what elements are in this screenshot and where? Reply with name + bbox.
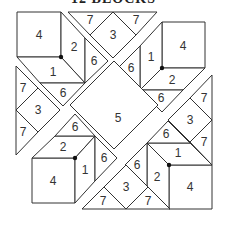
piece-label: 2	[60, 140, 67, 154]
piece-label: 3	[35, 103, 42, 117]
piece-label: 6	[101, 151, 108, 165]
piece-label: 2	[71, 40, 78, 54]
piece-label: 7	[145, 194, 152, 208]
piece-label: 6	[60, 86, 67, 100]
piece-label: 7	[100, 194, 107, 208]
piece-label: 6	[163, 127, 170, 141]
piece-label: 2	[154, 170, 161, 184]
puzzle-diagram: 421667377374126673754216641266737	[0, 0, 227, 232]
vertex-dot-bl-dot	[73, 156, 77, 160]
piece-label: 6	[134, 158, 141, 172]
piece-label: 3	[187, 113, 194, 127]
piece-label: 7	[20, 125, 27, 139]
vertex-dot-br-dot	[167, 163, 171, 167]
piece-label: 4	[36, 28, 43, 42]
piece-label: 4	[50, 174, 57, 188]
vertex-dot-tr-dot	[160, 66, 164, 70]
piece-label: 4	[180, 39, 187, 53]
piece-label: 2	[169, 73, 176, 87]
piece-label: 7	[201, 91, 208, 105]
piece-label: 7	[87, 13, 94, 27]
piece-label: 4	[187, 180, 194, 194]
piece-label: 7	[201, 135, 208, 149]
piece-label: 7	[20, 81, 27, 95]
piece-label: 6	[128, 61, 135, 75]
piece-label: 3	[110, 28, 117, 42]
piece-label: 1	[148, 50, 155, 64]
piece-label: 7	[133, 13, 140, 27]
piece-label: 1	[175, 146, 182, 160]
vertex-dot-tl-dot	[59, 55, 63, 59]
piece-label: 1	[50, 65, 57, 79]
piece-label: 6	[158, 91, 165, 105]
piece-label: 1	[82, 163, 89, 177]
piece-label: 6	[91, 54, 98, 68]
piece-label: 6	[72, 120, 79, 134]
piece-label: 3	[123, 180, 130, 194]
piece-label: 5	[115, 111, 122, 125]
